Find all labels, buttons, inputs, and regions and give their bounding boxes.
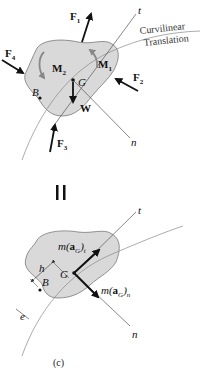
- kinetic-diagram: m(aG)t m(aG)n G B h e t n: [16, 204, 183, 356]
- h-label: h: [39, 262, 45, 274]
- f2-label: F2: [133, 71, 144, 86]
- figure-caption: (c): [53, 357, 64, 369]
- force-f3-arrow: [50, 125, 55, 152]
- point-b: [38, 96, 41, 99]
- w-label: W: [80, 102, 91, 114]
- g-label: G: [78, 76, 86, 88]
- free-body-diagram: G B W F1 F2 F3 F4 M2 M1 t n Curvilinear …: [2, 4, 200, 160]
- diagram-canvas: G B W F1 F2 F3 F4 M2 M1 t n Curvilinear …: [0, 0, 213, 380]
- f1-label: F1: [70, 10, 81, 25]
- n-axis-label: n: [132, 328, 138, 340]
- center-of-mass-point: [72, 271, 76, 275]
- force-f1-arrow: [82, 14, 91, 42]
- center-of-mass-point: [71, 78, 75, 82]
- b-label: B: [32, 86, 39, 98]
- h-dimension-ext2: [30, 279, 38, 287]
- n-axis-label: n: [131, 136, 137, 148]
- b-label: B: [42, 276, 49, 288]
- t-axis-label: t: [138, 4, 142, 16]
- t-axis-label: t: [138, 204, 142, 216]
- e-label: e: [20, 310, 25, 322]
- rigid-body-shape: [25, 40, 119, 116]
- point-b: [38, 288, 41, 291]
- f4-label: F4: [5, 47, 16, 62]
- f3-label: F3: [57, 137, 68, 152]
- equals-sign: [56, 185, 66, 200]
- normal-vector-label: m(aG)n: [101, 284, 131, 299]
